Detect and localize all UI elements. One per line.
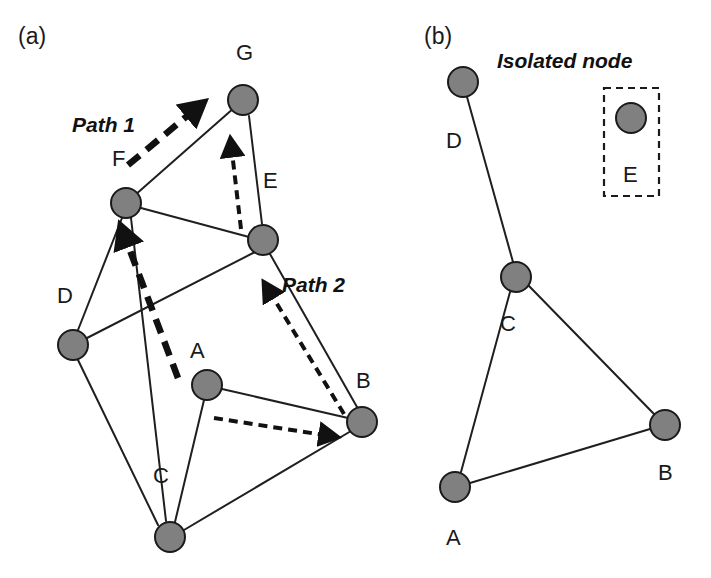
node-label-b-A: A [446, 525, 461, 550]
panel-b-node-labels: D E C B A [446, 128, 673, 550]
edge-C-B [184, 431, 351, 530]
panel-b-label: (b) [424, 23, 452, 49]
node-label-a-C: C [153, 463, 169, 488]
arrow-path2-a-to-b [214, 418, 324, 435]
edge-b-C-B [529, 286, 654, 414]
node-label-b-B: B [658, 460, 673, 485]
arrow-path1-f-to-g [128, 112, 192, 165]
network-diagram: (a) [0, 0, 711, 578]
node-label-a-D: D [57, 283, 73, 308]
arrow-path2-b-to-e [271, 294, 344, 414]
figure-root: (a) [0, 0, 711, 578]
edge-b-A-B [470, 429, 650, 483]
edge-b-D-C [467, 97, 513, 262]
node-label-a-F: F [112, 146, 125, 171]
node-label-a-E: E [263, 168, 278, 193]
node-b-B[interactable] [650, 410, 680, 440]
panel-b: (b) D E C B [424, 23, 680, 550]
node-b-D[interactable] [448, 67, 478, 97]
node-a-C[interactable] [155, 522, 185, 552]
edge-F-E [141, 208, 249, 237]
node-label-b-D: D [446, 128, 462, 153]
panel-a-nodes [58, 85, 377, 552]
edge-G-E [249, 116, 262, 224]
edge-F-D [78, 218, 122, 330]
node-label-b-C: C [500, 311, 516, 336]
node-a-G[interactable] [228, 85, 258, 115]
node-a-F[interactable] [111, 188, 141, 218]
arrow-path1-a-to-f [126, 240, 178, 378]
node-label-a-A: A [190, 338, 205, 363]
arrow-path2-e-to-g [232, 152, 241, 229]
node-a-A[interactable] [192, 370, 222, 400]
edge-D-A [87, 252, 255, 338]
edge-A-B [222, 389, 348, 418]
node-a-E[interactable] [248, 225, 278, 255]
path-1-label: Path 1 [72, 113, 135, 136]
panel-a-label: (a) [18, 23, 46, 49]
node-b-E[interactable] [616, 103, 646, 133]
node-b-A[interactable] [440, 472, 470, 502]
node-a-D[interactable] [58, 330, 88, 360]
node-label-b-E: E [623, 162, 638, 187]
panel-a: (a) [18, 23, 377, 552]
node-a-B[interactable] [347, 407, 377, 437]
isolated-node-label: Isolated node [497, 49, 633, 72]
edge-A-C [175, 400, 204, 522]
path-2-label: Path 2 [282, 273, 345, 296]
node-label-a-G: G [236, 40, 253, 65]
node-label-a-B: B [356, 368, 371, 393]
edge-D-C [78, 360, 158, 525]
panel-b-edges [461, 97, 654, 483]
node-b-C[interactable] [501, 262, 531, 292]
